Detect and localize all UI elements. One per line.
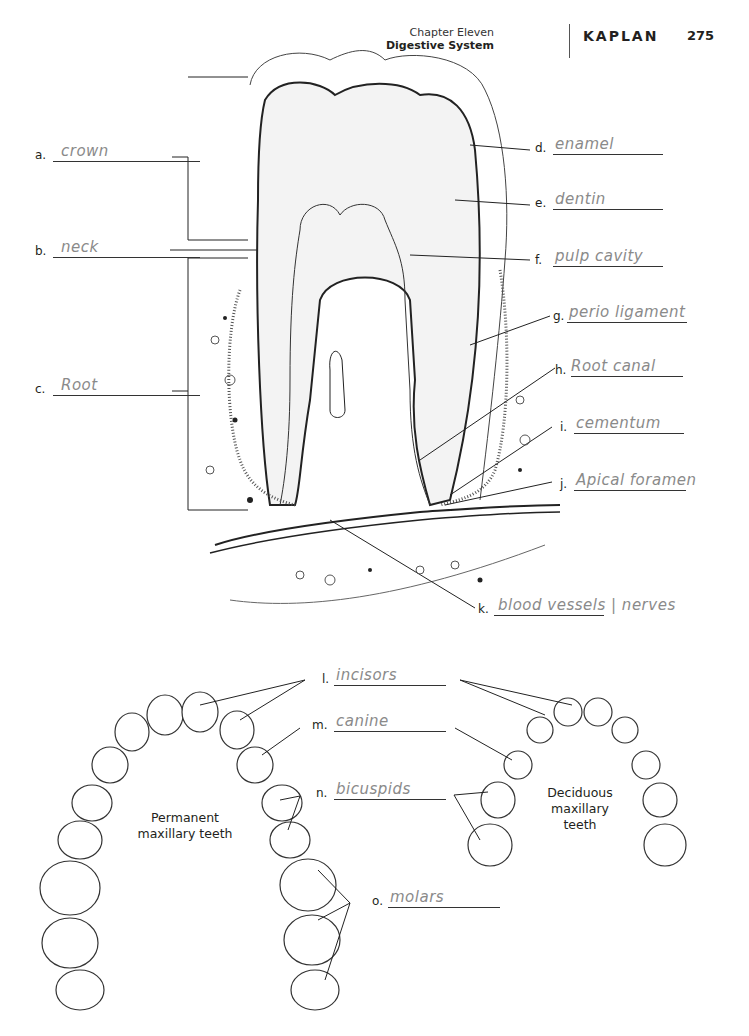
answer-line <box>571 376 683 377</box>
label-i-cementum[interactable]: i. cementum <box>560 414 720 436</box>
label-j-apical-foramen[interactable]: j. Apical foramen <box>560 471 749 493</box>
caption-deciduous-teeth: Deciduous maxillary teeth <box>540 785 620 833</box>
answer-text: dentin <box>555 190 606 208</box>
answer-line <box>334 799 446 800</box>
answer-line <box>574 490 686 491</box>
label-letter: l. <box>322 672 329 686</box>
label-d-enamel[interactable]: d. enamel <box>535 135 675 157</box>
label-letter: o. <box>372 894 383 908</box>
label-c-root[interactable]: c. Root <box>35 376 175 398</box>
label-letter: g. <box>553 309 564 323</box>
answer-text: Root <box>61 376 98 394</box>
answer-text: bicuspids <box>336 780 411 798</box>
label-letter: b. <box>35 244 46 258</box>
answer-line <box>334 685 446 686</box>
label-letter: h. <box>555 363 566 377</box>
answer-text: enamel <box>555 135 614 153</box>
label-o-molars[interactable]: o. molars <box>372 888 572 910</box>
caption-permanent-teeth: Permanent maxillary teeth <box>130 810 240 842</box>
label-letter: c. <box>35 382 45 396</box>
label-letter: e. <box>535 196 546 210</box>
label-letter: f. <box>535 253 542 267</box>
label-letter: n. <box>316 786 327 800</box>
answer-text: perio ligament <box>569 303 685 321</box>
answer-text: Root canal <box>571 357 656 375</box>
answer-line <box>553 266 663 267</box>
label-letter: d. <box>535 141 546 155</box>
answer-line <box>574 433 684 434</box>
answer-text: molars <box>390 888 444 906</box>
answer-line <box>334 731 446 732</box>
label-l-incisors[interactable]: l. incisors <box>322 666 522 688</box>
label-letter: a. <box>35 148 46 162</box>
answer-text: incisors <box>336 666 397 684</box>
label-h-root-canal[interactable]: h. Root canal <box>555 357 715 379</box>
label-k-blood-vessels-nerves[interactable]: k. blood vessels | nerves <box>478 596 738 618</box>
answer-text: canine <box>336 712 389 730</box>
label-letter: m. <box>312 718 328 732</box>
answer-text: Apical foramen <box>576 471 697 489</box>
answer-line <box>553 209 663 210</box>
answer-line <box>494 615 604 616</box>
answer-text: cementum <box>576 414 661 432</box>
label-letter: i. <box>560 420 567 434</box>
label-letter: k. <box>478 602 489 616</box>
label-letter: j. <box>560 477 567 491</box>
answer-line <box>53 257 200 258</box>
answer-text: neck <box>61 238 99 256</box>
answer-line <box>567 322 687 323</box>
label-a-crown[interactable]: a. crown <box>35 142 175 164</box>
answer-line <box>53 395 200 396</box>
answer-text: crown <box>61 142 109 160</box>
answer-line <box>53 161 200 162</box>
answer-line <box>553 154 663 155</box>
label-g-perio-ligament[interactable]: g. perio ligament <box>553 303 743 325</box>
answer-text: blood vessels | nerves <box>498 596 676 614</box>
answer-line <box>388 907 500 908</box>
label-f-pulp-cavity[interactable]: f. pulp cavity <box>535 247 675 269</box>
answer-text: pulp cavity <box>555 247 643 265</box>
label-b-neck[interactable]: b. neck <box>35 238 175 260</box>
label-e-dentin[interactable]: e. dentin <box>535 190 675 212</box>
label-m-canine[interactable]: m. canine <box>312 712 512 734</box>
label-n-bicuspids[interactable]: n. bicuspids <box>316 780 516 802</box>
